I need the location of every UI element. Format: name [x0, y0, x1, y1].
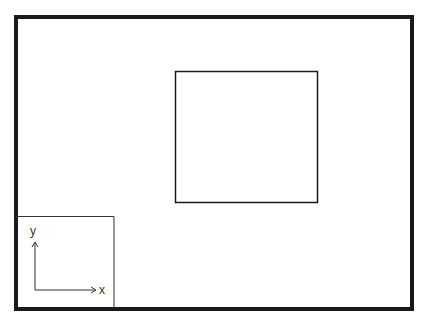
square-shape	[176, 72, 318, 203]
x-axis-label: x	[99, 283, 105, 297]
outer-frame	[16, 17, 412, 309]
diagram-canvas: y x	[0, 0, 424, 325]
axes-inset: y x	[16, 217, 114, 309]
y-axis-label: y	[30, 224, 36, 238]
